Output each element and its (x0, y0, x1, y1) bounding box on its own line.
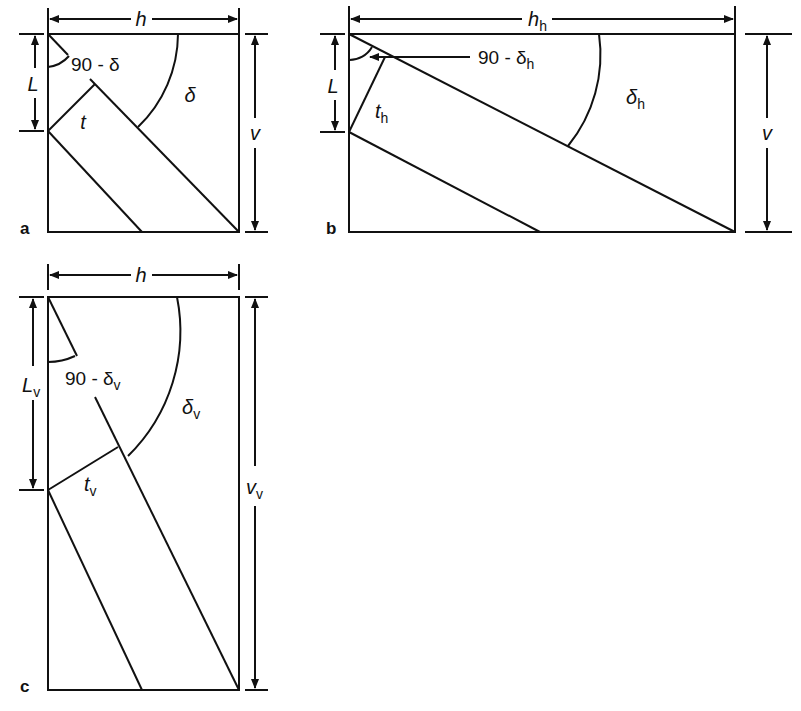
panel-c-complement-angle-label: 90 - δv (65, 368, 121, 393)
panel-c-label: c (20, 677, 29, 696)
panel-c-large-angle-arc (128, 297, 180, 456)
panel-a-label: a (20, 219, 30, 238)
panel-c-dip-ray (48, 297, 77, 356)
panel-a-width-label: h (135, 8, 146, 30)
panel-b-height-label: v (762, 122, 773, 144)
panel-c-thickness-line (48, 447, 118, 490)
panel-a-bed-lower (48, 131, 142, 232)
panel-c-bed-lower (48, 490, 142, 690)
panel-c-length-label: Lv (22, 374, 40, 400)
panel-a-thickness-line (48, 84, 95, 131)
panel-b-angle-label: δh (626, 86, 645, 112)
panel-b-complement-angle-label: 90 - δh (478, 47, 534, 72)
panel-a-thickness-label: t (80, 111, 87, 133)
panel-a-bed-upper (90, 79, 239, 232)
panel-b-label: b (326, 219, 336, 238)
panel-a-height-label: v (250, 122, 261, 144)
panel-b-length-label: L (327, 75, 338, 97)
panel-a-angle-label: δ (184, 84, 196, 106)
panel-c-height-label: vv (246, 476, 263, 502)
panel-b-small-angle-arc (349, 47, 372, 60)
panel-a-small-angle-arc (48, 56, 69, 67)
panel-b-thickness-label: th (375, 100, 388, 126)
panel-b: hh L v 90 - δh δh th b (320, 6, 792, 238)
panel-b-large-angle-arc (568, 34, 600, 146)
panel-c-angle-label: δv (182, 396, 200, 422)
panel-c-width-label: h (135, 264, 146, 286)
panel-b-bed-upper (349, 34, 735, 232)
panel-b-width-label: hh (528, 8, 547, 34)
panel-a-large-angle-arc (138, 34, 178, 127)
panel-c-bed-upper (95, 397, 239, 690)
panel-a-complement-angle-label: 90 - δ (71, 54, 120, 75)
panel-c: h Lv vv 90 - δv δv tv c (19, 264, 268, 696)
panel-a-dip-ray (48, 34, 68, 55)
panel-a-length-label: L (27, 73, 38, 95)
panel-a: h L v 90 - δ δ t a (19, 8, 268, 238)
figure-canvas: h L v 90 - δ δ t a hh L (0, 0, 801, 711)
panel-c-thickness-label: tv (84, 473, 97, 499)
panel-b-bed-lower (349, 132, 540, 232)
panel-c-small-angle-arc (48, 356, 75, 362)
